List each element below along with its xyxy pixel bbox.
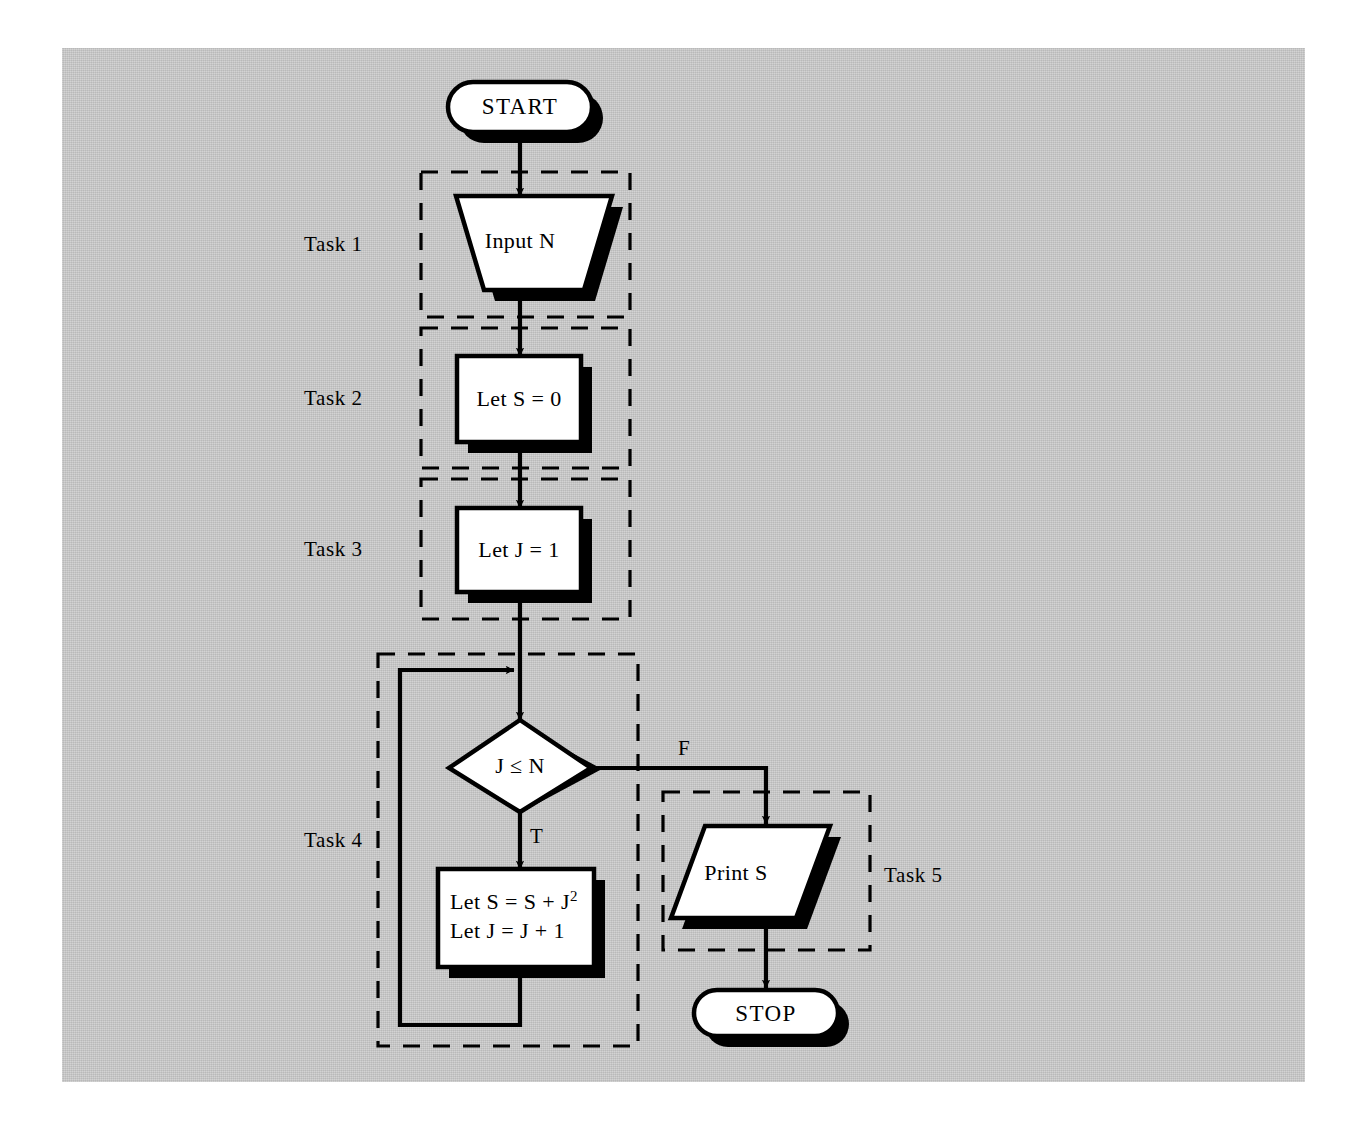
start-label: START bbox=[448, 94, 592, 120]
task-label-3: Task 3 bbox=[304, 537, 363, 562]
body-line-1-text: Let S = S + J2 bbox=[450, 889, 578, 914]
test-label: J ≤ N bbox=[449, 753, 591, 779]
flowchart-page: START Input N Let S = 0 Let J = 1 J ≤ N … bbox=[0, 0, 1366, 1132]
edge-label-true: T bbox=[530, 824, 543, 849]
task-label-4: Task 4 bbox=[304, 828, 363, 853]
init-s-label: Let S = 0 bbox=[457, 386, 581, 412]
task-label-5: Task 5 bbox=[884, 863, 943, 888]
task-label-1: Task 1 bbox=[304, 232, 363, 257]
body-label-line-1: Let S = S + J2 bbox=[450, 888, 600, 916]
task-4-group-box bbox=[378, 654, 638, 1046]
edge-test-false-to-print bbox=[591, 768, 766, 824]
input-label: Input N bbox=[456, 228, 584, 254]
edge-label-false: F bbox=[678, 736, 690, 761]
print-label: Print S bbox=[676, 860, 796, 886]
body-label-line-2: Let J = J + 1 bbox=[450, 917, 600, 945]
task-label-2: Task 2 bbox=[304, 386, 363, 411]
stop-label: STOP bbox=[694, 1001, 838, 1027]
flowchart-graphics bbox=[0, 0, 1366, 1132]
init-j-label: Let J = 1 bbox=[457, 537, 581, 563]
